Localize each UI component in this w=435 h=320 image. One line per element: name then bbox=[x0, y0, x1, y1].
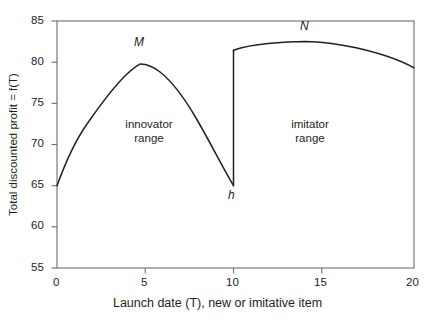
y-tick-label-65: 65 bbox=[31, 178, 44, 190]
chart-figure: Total discounted profit = f(T) 85 80 75 … bbox=[0, 0, 435, 320]
y-tick-label-75: 75 bbox=[31, 96, 44, 108]
y-tick-label-60: 60 bbox=[31, 219, 44, 231]
annotation-label-N: N bbox=[300, 19, 309, 33]
y-axis-ticks bbox=[52, 21, 58, 268]
x-axis-title: Launch date (T), new or imitative item bbox=[0, 296, 435, 310]
region-label-imitator-line2: range bbox=[265, 131, 355, 145]
annotation-label-M: M bbox=[134, 35, 144, 49]
region-label-imitator: imitator range bbox=[265, 117, 355, 146]
imitator-curve bbox=[234, 42, 415, 68]
x-tick-label-15: 15 bbox=[314, 276, 327, 288]
region-label-imitator-line1: imitator bbox=[265, 117, 355, 131]
x-tick-label-10: 10 bbox=[226, 276, 239, 288]
y-tick-label-85: 85 bbox=[31, 14, 44, 26]
x-axis-ticks bbox=[145, 268, 322, 274]
region-label-innovator-line1: innovator bbox=[104, 117, 194, 131]
y-tick-label-55: 55 bbox=[31, 261, 44, 273]
x-tick-label-20: 20 bbox=[406, 276, 419, 288]
chart-canvas: Total discounted profit = f(T) bbox=[0, 0, 435, 320]
y-tick-label-80: 80 bbox=[31, 55, 44, 67]
y-axis-title: Total discounted profit = f(T) bbox=[7, 73, 19, 216]
x-tick-label-5: 5 bbox=[141, 276, 148, 288]
region-label-innovator-line2: range bbox=[104, 131, 194, 145]
x-tick-label-0: 0 bbox=[53, 276, 60, 288]
region-label-innovator: innovator range bbox=[104, 117, 194, 146]
annotation-label-h: h bbox=[228, 188, 235, 202]
y-tick-label-70: 70 bbox=[31, 137, 44, 149]
